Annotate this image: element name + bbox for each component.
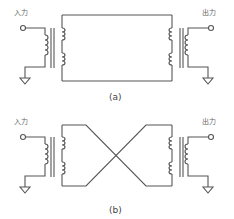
output-terminal-icon <box>209 135 214 140</box>
cross-wire-1 <box>62 125 172 186</box>
circuit-b <box>0 0 234 219</box>
input-terminal-icon <box>21 135 26 140</box>
ground-icon <box>20 187 30 193</box>
ground-icon <box>203 187 213 193</box>
cross-wire-2 <box>62 125 172 186</box>
